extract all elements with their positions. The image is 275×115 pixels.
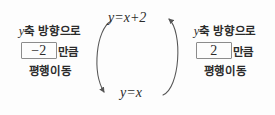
left-axis-direction-text: 축 방향으로 (24, 25, 81, 37)
left-amount-row: −2 만큼 (21, 42, 79, 59)
left-value-box[interactable]: −2 (21, 42, 57, 59)
right-translation-label: 평행이동 (204, 62, 247, 78)
translation-cycle-diagram: y=x+2 y=x y축 방향으로 −2 만큼 평행이동 y축 방향으로 2 만… (0, 0, 275, 115)
right-axis-direction-text: 축 방향으로 (199, 25, 256, 37)
right-amount-suffix: 만큼 (233, 43, 254, 59)
left-arc-path (97, 21, 111, 92)
left-axis-direction-label: y축 방향으로 (19, 22, 81, 39)
left-translation-label: 평행이동 (29, 62, 72, 78)
left-instruction-block: y축 방향으로 −2 만큼 평행이동 (2, 22, 98, 78)
left-amount-suffix: 만큼 (58, 43, 79, 59)
right-value-box[interactable]: 2 (196, 42, 232, 59)
right-instruction-block: y축 방향으로 2 만큼 평행이동 (177, 22, 273, 78)
equation-top: y=x+2 (108, 10, 146, 26)
right-arc-path (163, 19, 178, 95)
equation-bottom: y=x (120, 85, 142, 101)
right-amount-row: 2 만큼 (196, 42, 254, 59)
right-axis-direction-label: y축 방향으로 (194, 22, 256, 39)
